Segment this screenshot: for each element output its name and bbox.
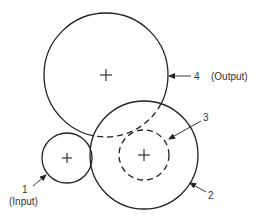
gear-3-leader-arrow-icon [169,121,201,139]
gear-2 [90,101,198,209]
gear-2-center-cross-icon [138,149,150,161]
gear-4-center-cross-icon [100,69,112,81]
gear-2-number-label: 2 [208,190,214,201]
gear-1-role-label: (Input) [9,196,38,207]
gear-train-diagram: 4 (Output) 3 2 1 (Input) [0,0,261,217]
gear-1-input [42,133,92,183]
gear-3-number-label: 3 [203,112,209,123]
gear-1-number-label: 1 [22,184,28,195]
gear-1-leader-arrow-icon [33,175,46,186]
gear-2-leader-arrow-icon [190,183,206,192]
gear-1-center-cross-icon [62,153,72,163]
gear-4-number-label: 4 [194,71,200,82]
gear-4-output [44,13,168,137]
gear-4-role-label: (Output) [211,71,248,82]
